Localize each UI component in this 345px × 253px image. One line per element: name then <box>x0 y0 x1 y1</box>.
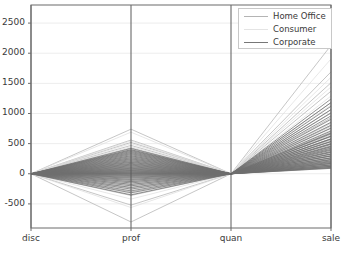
y-tick-label: 2500 <box>0 17 25 27</box>
legend-item-consumer[interactable]: Consumer <box>239 23 331 35</box>
legend-swatch-home-office <box>244 16 268 17</box>
legend-item-home-office[interactable]: Home Office <box>239 10 331 22</box>
y-tick-label: -500 <box>0 198 25 208</box>
x-tick-label: prof <box>106 233 156 243</box>
y-tick-label: 1000 <box>0 107 25 117</box>
legend-swatch-consumer <box>244 29 268 30</box>
legend-label-consumer: Consumer <box>273 23 316 35</box>
x-tick-label: quan <box>206 233 256 243</box>
y-tick-label: 1500 <box>0 77 25 87</box>
y-tick-label: 500 <box>0 138 25 148</box>
y-tick-label: 2000 <box>0 47 25 57</box>
legend-label-corporate: Corporate <box>273 36 316 48</box>
x-tick-label: sale <box>306 233 345 243</box>
legend[interactable]: Home Office Consumer Corporate <box>238 8 332 49</box>
legend-label-home-office: Home Office <box>273 10 326 22</box>
x-tick-label: disc <box>6 233 56 243</box>
legend-swatch-corporate <box>244 42 268 43</box>
legend-item-corporate[interactable]: Corporate <box>239 36 331 48</box>
y-tick-label: 0 <box>0 168 25 178</box>
